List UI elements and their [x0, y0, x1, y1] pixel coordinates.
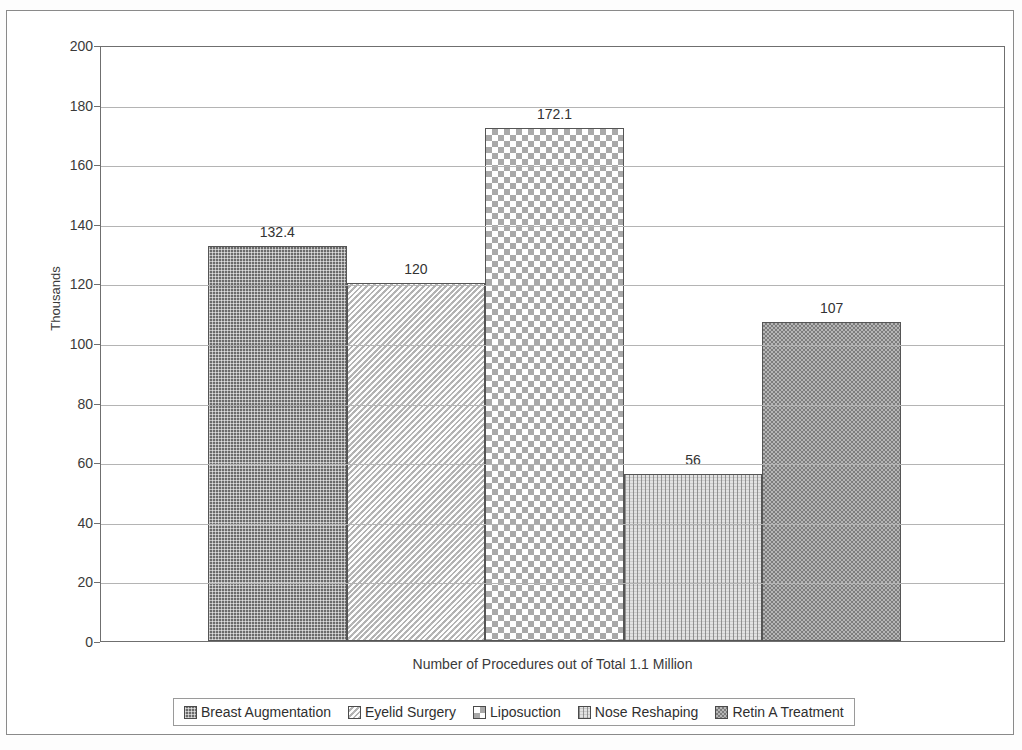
- bar-nose-reshaping[interactable]: [624, 474, 763, 641]
- legend-item[interactable]: Retin A Treatment: [715, 704, 843, 720]
- bar-value-label: 132.4: [260, 224, 295, 240]
- gridline: [101, 345, 1004, 346]
- gridline: [101, 166, 1004, 167]
- y-axis-tick-mark: [94, 523, 100, 524]
- y-axis-tick-label: 60: [37, 455, 93, 471]
- plot-area: 132.4120172.156107: [100, 46, 1005, 642]
- bar-retin-a-treatment[interactable]: [762, 322, 901, 641]
- gridline: [101, 107, 1004, 108]
- y-axis-tick-mark: [94, 165, 100, 166]
- y-axis-tick-label: 100: [37, 336, 93, 352]
- gridline: [101, 464, 1004, 465]
- y-axis-tick-label: 20: [37, 574, 93, 590]
- bar-value-label: 172.1: [537, 106, 572, 122]
- chart-container: 132.4120172.156107 Thousands Number of P…: [0, 0, 1022, 750]
- chart-legend: Breast AugmentationEyelid SurgeryLiposuc…: [173, 698, 855, 726]
- gridline: [101, 405, 1004, 406]
- y-axis-tick-mark: [94, 404, 100, 405]
- legend-item-label: Eyelid Surgery: [365, 704, 456, 720]
- legend-swatch-icon: [348, 706, 361, 719]
- bar-value-label: 56: [685, 452, 701, 468]
- y-axis-tick-label: 200: [37, 38, 93, 54]
- legend-item[interactable]: Breast Augmentation: [184, 704, 331, 720]
- legend-item-label: Liposuction: [490, 704, 561, 720]
- y-axis-tick-label: 80: [37, 396, 93, 412]
- gridline: [101, 285, 1004, 286]
- y-axis-tick-label: 40: [37, 515, 93, 531]
- chart-outer-frame: 132.4120172.156107 Thousands Number of P…: [6, 10, 1014, 735]
- y-axis-tick-mark: [94, 46, 100, 47]
- legend-item-label: Nose Reshaping: [595, 704, 699, 720]
- gridline: [101, 226, 1004, 227]
- legend-swatch-icon: [473, 706, 486, 719]
- x-axis-title: Number of Procedures out of Total 1.1 Mi…: [100, 656, 1005, 672]
- gridline: [101, 583, 1004, 584]
- legend-item-label: Breast Augmentation: [201, 704, 331, 720]
- legend-swatch-icon: [715, 706, 728, 719]
- bar-value-label: 107: [820, 300, 843, 316]
- y-axis-tick-mark: [94, 344, 100, 345]
- y-axis-tick-label: 140: [37, 217, 93, 233]
- bar-value-label: 120: [404, 261, 427, 277]
- legend-swatch-icon: [184, 706, 197, 719]
- bars-layer: 132.4120172.156107: [101, 47, 1004, 641]
- legend-swatch-icon: [578, 706, 591, 719]
- y-axis-tick-label: 120: [37, 276, 93, 292]
- bar-liposuction[interactable]: [485, 128, 624, 641]
- legend-item[interactable]: Eyelid Surgery: [348, 704, 456, 720]
- gridline: [101, 524, 1004, 525]
- legend-item[interactable]: Nose Reshaping: [578, 704, 699, 720]
- y-axis-tick-mark: [94, 284, 100, 285]
- y-axis-tick-label: 0: [37, 634, 93, 650]
- y-axis-tick-mark: [94, 225, 100, 226]
- legend-item[interactable]: Liposuction: [473, 704, 561, 720]
- y-axis-tick-mark: [94, 463, 100, 464]
- legend-item-label: Retin A Treatment: [732, 704, 843, 720]
- y-axis-tick-mark: [94, 106, 100, 107]
- y-axis-tick-label: 160: [37, 157, 93, 173]
- y-axis-tick-mark: [94, 642, 100, 643]
- y-axis-tick-mark: [94, 582, 100, 583]
- y-axis-tick-label: 180: [37, 98, 93, 114]
- bar-eyelid-surgery[interactable]: [347, 283, 486, 641]
- bar-breast-augmentation[interactable]: [208, 246, 347, 641]
